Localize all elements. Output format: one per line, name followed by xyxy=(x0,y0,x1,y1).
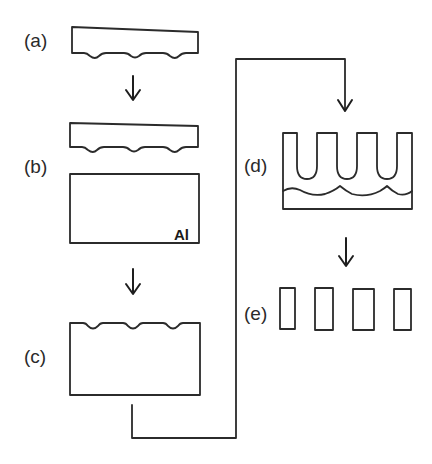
pillar xyxy=(353,289,374,330)
step-c: (c) xyxy=(24,323,200,395)
process-diagram: (a) (b) Al (c) (d) (e) xyxy=(0,0,432,464)
stamp-shape xyxy=(72,27,198,58)
imprinted-aluminium xyxy=(70,323,200,395)
pillar xyxy=(315,288,333,330)
stamp-shape xyxy=(70,123,198,152)
down-arrow-icon xyxy=(126,269,140,294)
pillar xyxy=(280,288,295,329)
porous-anodic-layer xyxy=(283,133,412,209)
step-e-label: (e) xyxy=(244,303,267,324)
step-b-label: (b) xyxy=(24,156,47,177)
step-d: (d) xyxy=(244,133,412,209)
step-e: (e) xyxy=(244,288,411,330)
step-a-label: (a) xyxy=(24,30,47,51)
step-c-label: (c) xyxy=(24,346,46,367)
step-d-label: (d) xyxy=(244,155,267,176)
material-label-al: Al xyxy=(174,226,189,243)
down-arrow-icon xyxy=(126,76,140,100)
down-arrow-icon xyxy=(339,238,353,266)
step-a: (a) xyxy=(24,27,198,58)
elbow-connector-arrow-icon xyxy=(132,59,352,438)
barrier-layer-interface xyxy=(283,186,412,195)
pillar xyxy=(394,289,411,330)
step-b: (b) Al xyxy=(24,123,199,243)
